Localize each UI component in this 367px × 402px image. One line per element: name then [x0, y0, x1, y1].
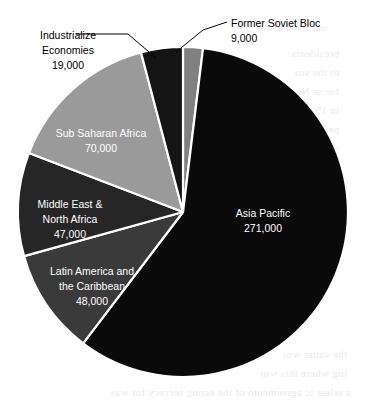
- slice-value-label: 19,000: [52, 59, 84, 71]
- slice-value-label: 70,000: [85, 142, 117, 154]
- slice-name-label: Middle East &: [38, 198, 103, 210]
- slice-name-label: Sub Saharan Africa: [56, 127, 147, 139]
- slice-name-label: Asia Pacific: [236, 207, 290, 219]
- slice-name-label: Industrialize: [40, 29, 96, 41]
- slice-value-label: 9,000: [231, 32, 257, 44]
- slice-value-label: 47,000: [54, 228, 86, 240]
- slice-name-label: North Africa: [43, 213, 98, 225]
- pie-slices-group: [18, 47, 348, 377]
- slice-value-label: 271,000: [244, 222, 282, 234]
- slice-name-label: Former Soviet Bloc: [231, 17, 320, 29]
- slice-name-label: the Caribbean: [59, 280, 125, 292]
- slice-name-label: Economies: [42, 44, 94, 56]
- slice-name-label: Latin America and: [50, 265, 134, 277]
- slice-value-label: 48,000: [76, 295, 108, 307]
